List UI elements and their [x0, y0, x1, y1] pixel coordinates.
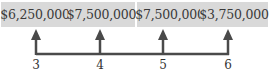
period-label: 6: [218, 58, 238, 72]
arrow-up-icon: [31, 29, 41, 40]
period-label: 4: [90, 58, 110, 72]
arrow-up-icon: [95, 29, 105, 40]
period-label: 3: [26, 58, 46, 72]
arrow-up-icon: [158, 29, 168, 40]
period-label: 5: [153, 58, 173, 72]
arrow-up-icon: [223, 29, 233, 40]
